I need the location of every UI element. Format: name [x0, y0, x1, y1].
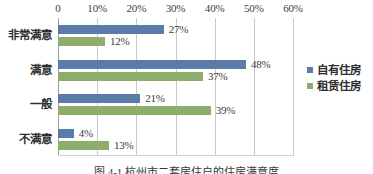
legend-swatch-icon-own-housing [307, 67, 313, 73]
bar [58, 106, 211, 115]
category-label: 一般 [0, 98, 52, 111]
bar-chart: 010%20%30%40%50%60% 27%12%48%37%21%39%4%… [0, 0, 373, 174]
bar-value-label: 37% [208, 71, 228, 82]
bar [58, 129, 74, 138]
category-label: 满意 [0, 64, 52, 77]
bar-value-label: 13% [114, 140, 134, 151]
plot-area: 27%12%48%37%21%39%4%13% [58, 18, 293, 156]
bar-value-label: 21% [145, 93, 165, 104]
x-axis-tick-40pct: 40% [205, 2, 225, 14]
category-label: 不满意 [0, 133, 52, 146]
bar [58, 141, 109, 150]
legend-item-rental-housing[interactable]: 租赁住房 [307, 78, 373, 94]
x-axis-tick-50pct: 50% [244, 2, 264, 14]
bar-value-label: 4% [79, 128, 93, 139]
x-axis-tick-0: 0 [55, 2, 60, 14]
bar [58, 72, 203, 81]
bar-value-label: 12% [110, 36, 130, 47]
plot-bottom-rule [58, 155, 294, 156]
legend-label-own-housing: 自有住房 [317, 63, 361, 77]
bar-group: 48%37% [58, 53, 293, 88]
bar-value-label: 48% [251, 59, 271, 70]
bar-group: 4%13% [58, 122, 293, 157]
bar [58, 60, 246, 69]
x-axis-tick-30pct: 30% [166, 2, 186, 14]
x-axis-tick-20pct: 20% [127, 2, 147, 14]
x-axis-tick-10pct: 10% [87, 2, 107, 14]
bar [58, 25, 164, 34]
chart-legend: 自有住房 租赁住房 [307, 62, 373, 94]
category-label: 非常满意 [0, 29, 52, 42]
x-axis-tick-60pct: 60% [283, 2, 303, 14]
bar-value-label: 39% [216, 105, 236, 116]
bar [58, 94, 140, 103]
legend-item-own-housing[interactable]: 自有住房 [307, 62, 373, 78]
figure-caption: 图 4-1 杭州市二套房住户的住房满意度 [0, 166, 373, 174]
bar-group: 27%12% [58, 18, 293, 53]
legend-label-rental-housing: 租赁住房 [317, 79, 361, 93]
bar-group: 21%39% [58, 87, 293, 122]
bar [58, 37, 105, 46]
bar-value-label: 27% [169, 24, 189, 35]
legend-swatch-icon-rental-housing [307, 83, 313, 89]
gridline [293, 18, 294, 156]
x-axis-tick-labels: 010%20%30%40%50%60% [0, 0, 373, 18]
